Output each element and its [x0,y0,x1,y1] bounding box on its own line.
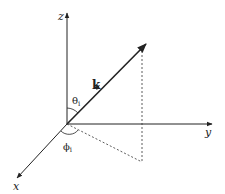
spherical-coordinates-diagram: z y x k θi ϕi [0,0,225,194]
phi-label: ϕi [63,141,73,154]
k-vector-label: k [92,78,101,92]
x-axis [17,124,67,178]
k-vector [67,44,146,124]
x-axis-label: x [13,180,20,193]
z-axis-label: z [57,10,64,23]
theta-label: θi [72,95,81,108]
y-axis-label: y [204,126,212,139]
phi-arc [61,130,78,134]
xy-projection-line [67,124,142,162]
theta-arc [67,108,78,113]
